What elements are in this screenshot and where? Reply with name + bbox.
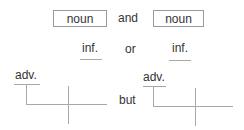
noun-box-left: noun — [53, 10, 107, 27]
noun-label-left: noun — [67, 12, 94, 26]
adverb-right-connector — [153, 86, 154, 106]
clause-left-baseline — [26, 104, 107, 105]
adverb-left: adv. — [15, 68, 37, 82]
infinitive-right: inf. — [172, 41, 188, 55]
adverb-left-connector — [26, 84, 27, 104]
conjunction-or: or — [125, 42, 136, 56]
clause-right-baseline — [153, 106, 233, 107]
adverb-right-baseline — [143, 86, 166, 87]
infinitive-left-underline — [80, 59, 102, 60]
adverb-right: adv. — [143, 70, 165, 84]
adverb-left-baseline — [14, 84, 40, 85]
noun-box-right: noun — [153, 10, 204, 27]
clause-left-divider — [68, 86, 69, 124]
infinitive-right-underline — [169, 60, 191, 61]
clause-right-divider — [195, 88, 196, 126]
conjunction-but: but — [119, 93, 136, 107]
noun-label-right: noun — [165, 12, 192, 26]
conjunction-and: and — [118, 11, 138, 25]
infinitive-left: inf. — [82, 41, 98, 55]
